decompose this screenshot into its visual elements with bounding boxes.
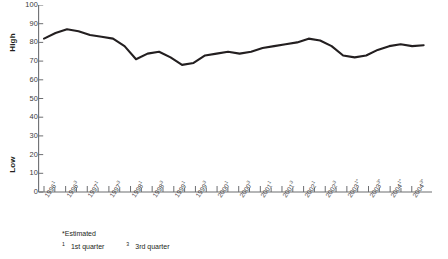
- footnote-q3-text: 3rd quarter: [135, 243, 169, 250]
- y-tick-label: 50: [30, 95, 38, 103]
- chart-svg: [38, 5, 432, 193]
- y-tick-label: 10: [30, 169, 38, 177]
- y-tick-label: 70: [30, 57, 38, 65]
- y-axis-ticks: [39, 5, 44, 192]
- footnote-q1-text: 1st quarter: [71, 243, 104, 250]
- x-axis-labels: 1996119963199711997319981199831999119993…: [38, 194, 436, 226]
- footnote-q3-mark: 3: [126, 241, 129, 247]
- footnote-estimated: *Estimated: [62, 228, 170, 239]
- data-series-line: [44, 29, 424, 65]
- y-tick-label: 20: [30, 151, 38, 159]
- plot-area: [38, 5, 432, 193]
- footnote-quarters: 11st quarter33rd quarter: [62, 239, 170, 252]
- axis-lines: [39, 5, 432, 192]
- y-tick-label: 40: [30, 113, 38, 121]
- y-tick-label: 90: [30, 20, 38, 28]
- y-tick-label: 60: [30, 76, 38, 84]
- footnote-q1-mark: 1: [62, 241, 65, 247]
- y-axis-labels: 1009080706050403020100: [16, 0, 38, 259]
- y-tick-label: 30: [30, 132, 38, 140]
- quarterly-index-line-chart: High Low 1009080706050403020100 19961199…: [0, 0, 448, 259]
- y-tick-label: 80: [30, 38, 38, 46]
- footnote-estimated-text: Estimated: [65, 230, 96, 237]
- chart-footnotes: *Estimated 11st quarter33rd quarter: [62, 228, 170, 252]
- y-tick-label: 100: [25, 1, 38, 9]
